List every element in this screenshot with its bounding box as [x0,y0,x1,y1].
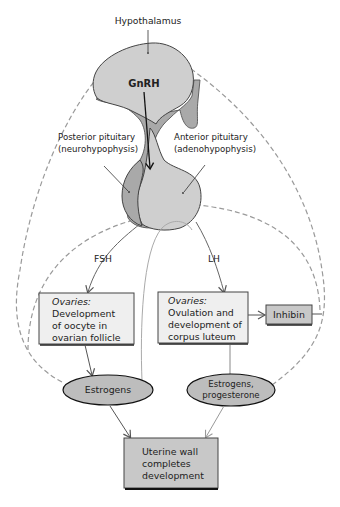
anterior-pituitary-label: Anterior pituitary [174,132,248,142]
inhibin-box: Inhibin [266,305,312,325]
follicle-to-estrogens-arrow [85,345,92,375]
gnrh-label: GnRH [128,78,159,89]
estrogens-to-uterine-arrow [110,406,130,437]
posterior-pituitary-sublabel: (neurohypophysis) [58,144,138,154]
lh-label: LH [208,253,220,264]
posterior-pituitary-label: Posterior pituitary [58,132,135,142]
ovaries-follicle-box: Ovaries: Development of oocyte in ovaria… [39,293,134,345]
ovaries-right-line-3: corpus luteum [168,331,236,342]
estrogens-progesterone-ellipse: Estrogens, progesterone [187,374,275,406]
ovaries-right-heading: Ovaries: [168,295,207,306]
uterine-line-2: completes [142,458,191,469]
anterior-pituitary-sublabel: (adenohypophysis) [174,144,256,154]
hormone-diagram: Hypothalamus GnRH Posterior pituitary (n… [0,0,340,507]
inhibin-label: Inhibin [273,309,305,320]
ovaries-corpus-luteum-box: Ovaries: Ovulation and development of co… [158,292,248,344]
uterine-line-3: development [142,470,204,481]
hypothalamus-label: Hypothalamus [115,15,182,26]
estrogens-progesterone-line-2: progesterone [202,390,259,400]
posterior-pointer [104,166,128,191]
gland-illustration [93,30,205,230]
estrogens-progesterone-line-1: Estrogens, [208,379,253,389]
uterine-wall-box: Uterine wall completes development [124,438,218,489]
ovaries-left-line-3: ovarian follicle [52,332,121,343]
fsh-label: FSH [94,253,112,264]
estrogens-ellipse: Estrogens [63,375,153,405]
estrogens-label: Estrogens [85,384,132,395]
uterine-line-1: Uterine wall [142,446,198,457]
ovaries-left-line-1: Development [52,308,115,319]
ovaries-right-line-2: development of [168,319,243,330]
ovaries-right-line-1: Ovulation and [168,307,234,318]
ovaries-left-line-2: of oocyte in [52,320,107,331]
ovaries-left-heading: Ovaries: [52,296,91,307]
progesterone-to-uterine-arrow [206,406,224,437]
